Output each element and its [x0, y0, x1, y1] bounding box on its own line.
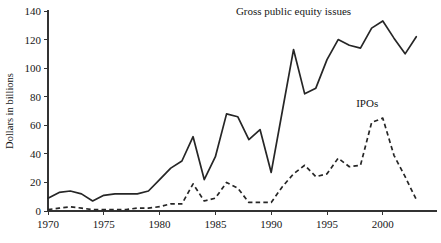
x-tick-label: 1995 [316, 218, 339, 230]
x-tick-label: 1970 [37, 218, 60, 230]
chart-figure: 020406080100120140 197019751980198519901… [0, 0, 441, 243]
plot-axes [44, 10, 437, 215]
x-tick-label: 1975 [93, 218, 116, 230]
y-tick-label: 100 [25, 62, 42, 74]
y-tick-label: 80 [30, 91, 42, 103]
y-tick-label: 120 [25, 34, 42, 46]
y-axis-title: Dollars in billions [4, 73, 15, 149]
x-axis-ticks [48, 211, 383, 215]
y-tick-label: 20 [30, 176, 42, 188]
chart-canvas: 020406080100120140 197019751980198519901… [0, 0, 441, 243]
y-tick-label: 60 [30, 119, 42, 131]
y-axis-ticks [44, 11, 48, 211]
chart-series-group [48, 21, 416, 210]
x-axis-tick-labels: 1970197519801985199019952000 [37, 218, 394, 230]
series-annotation-gross-public-equity-issues: Gross public equity issues [236, 5, 351, 17]
x-tick-label: 1985 [204, 218, 227, 230]
y-tick-label: 140 [25, 5, 42, 17]
x-tick-label: 2000 [372, 218, 395, 230]
series-annotation-ipos: IPOs [356, 97, 378, 109]
y-axis-tick-labels: 020406080100120140 [25, 5, 42, 217]
y-tick-label: 40 [30, 148, 42, 160]
series-line-gross-public-equity-issues [48, 21, 416, 201]
x-tick-label: 1990 [260, 218, 283, 230]
x-tick-label: 1980 [149, 218, 172, 230]
y-tick-label: 0 [36, 205, 42, 217]
